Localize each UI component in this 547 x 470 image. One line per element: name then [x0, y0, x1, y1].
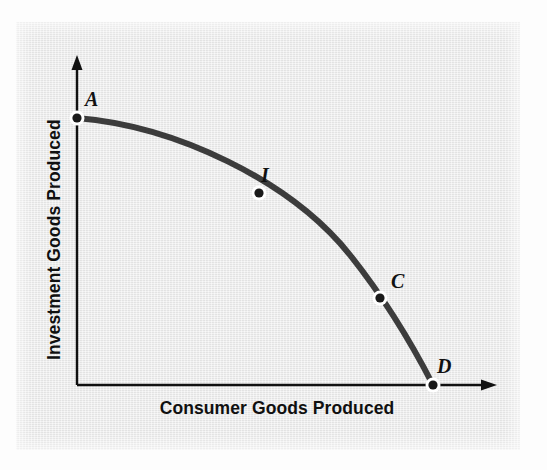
data-point-markers	[70, 111, 441, 393]
y-axis-arrowhead	[72, 55, 83, 70]
ppf-curve-group	[77, 118, 433, 385]
ppf-curve	[77, 118, 433, 385]
point-label-a: A	[85, 89, 98, 109]
axes-group	[72, 55, 498, 391]
point-label-c: C	[391, 271, 404, 291]
y-axis-title: Investment Goods Produced	[44, 119, 65, 360]
data-point-D[interactable]	[426, 378, 441, 393]
point-label-d: D	[437, 356, 451, 376]
x-axis-arrowhead	[481, 380, 497, 391]
point-label-i: I	[261, 165, 269, 185]
data-point-I[interactable]	[252, 186, 267, 201]
x-axis-title: Consumer Goods Produced	[137, 398, 417, 419]
data-point-C[interactable]	[373, 291, 388, 306]
figure-root: A I C D Investment Goods Produced Consum…	[0, 0, 547, 470]
data-point-A[interactable]	[70, 111, 85, 126]
